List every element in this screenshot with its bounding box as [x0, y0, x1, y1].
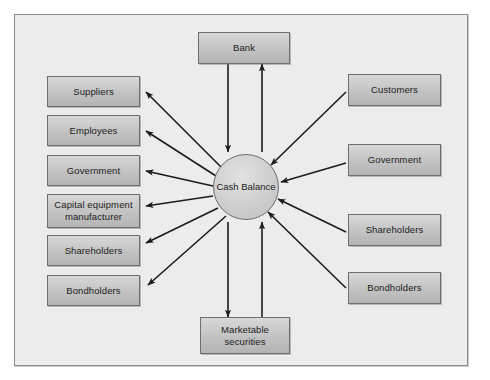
node-cash-balance[interactable]: Cash Balance: [213, 154, 279, 220]
marketable-securities-line2: securities: [218, 336, 272, 348]
node-shareholders-left-label: Shareholders: [62, 245, 126, 257]
capital-equipment-line2: manufacturer: [51, 211, 135, 223]
node-customers-label: Customers: [368, 84, 421, 96]
capital-equipment-line1: Capital equipment: [51, 199, 135, 211]
arrow-cash-to-bondholders-left: [148, 216, 226, 285]
node-government-right[interactable]: Government: [348, 144, 441, 176]
arrow-cash-to-employees: [146, 131, 216, 176]
arrow-cash-to-shareholders-left: [146, 208, 218, 243]
node-capital-equipment-manufacturer[interactable]: Capital equipment manufacturer: [47, 194, 140, 228]
cash-balance-line2: Balance: [241, 181, 275, 192]
node-government-left[interactable]: Government: [47, 155, 140, 186]
node-marketable-securities[interactable]: Marketable securities: [200, 317, 290, 354]
marketable-securities-line1: Marketable: [218, 324, 272, 336]
node-bank[interactable]: Bank: [198, 32, 290, 64]
arrow-cash-to-capital-equipment-manufacturer: [146, 196, 213, 206]
node-bondholders-right[interactable]: Bondholders: [348, 272, 441, 304]
diagram-canvas: Bank Cash Balance Suppliers Employees Go…: [0, 0, 490, 380]
node-customers[interactable]: Customers: [348, 74, 441, 106]
node-suppliers-label: Suppliers: [70, 86, 117, 98]
node-marketable-securities-label: Marketable securities: [218, 324, 272, 348]
cash-balance-line1: Cash: [216, 181, 238, 192]
node-employees[interactable]: Employees: [47, 115, 140, 146]
arrow-bondholders-right-to-cash: [268, 212, 346, 288]
arrow-cash-to-suppliers: [146, 92, 222, 168]
arrow-cash-to-government-left: [146, 171, 213, 186]
arrow-customers-to-cash: [271, 92, 346, 165]
node-bondholders-right-label: Bondholders: [364, 282, 424, 294]
node-bondholders-left-label: Bondholders: [63, 285, 123, 297]
node-suppliers[interactable]: Suppliers: [47, 76, 140, 107]
node-bondholders-left[interactable]: Bondholders: [47, 275, 140, 306]
node-employees-label: Employees: [67, 125, 121, 137]
node-shareholders-right-label: Shareholders: [363, 224, 427, 236]
arrow-shareholders-right-to-cash: [278, 199, 346, 232]
arrow-government-right-to-cash: [281, 163, 346, 182]
node-capital-equipment-manufacturer-label: Capital equipment manufacturer: [51, 199, 135, 223]
cash-balance-label: Cash Balance: [216, 181, 275, 193]
node-government-left-label: Government: [64, 165, 123, 177]
node-bank-label: Bank: [230, 42, 258, 54]
node-shareholders-left[interactable]: Shareholders: [47, 235, 140, 266]
node-government-right-label: Government: [365, 154, 424, 166]
node-shareholders-right[interactable]: Shareholders: [348, 214, 441, 246]
